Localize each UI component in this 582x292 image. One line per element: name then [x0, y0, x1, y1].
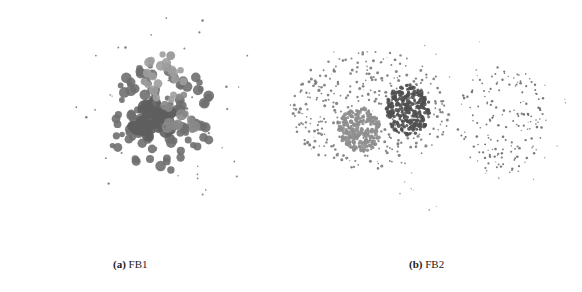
graph-node — [183, 48, 185, 50]
graph-node — [523, 101, 524, 102]
graph-node — [496, 166, 498, 168]
graph-node — [486, 103, 488, 105]
graph-node — [490, 104, 492, 106]
graph-node — [523, 125, 525, 127]
graph-node — [317, 124, 319, 126]
graph-node — [403, 96, 407, 100]
graph-node — [530, 121, 532, 123]
graph-node — [557, 145, 558, 146]
graph-node — [516, 155, 519, 158]
graph-node — [293, 104, 296, 107]
graph-canvas-fb1 — [60, 0, 280, 250]
graph-node — [491, 100, 494, 103]
graph-node — [405, 65, 407, 67]
graph-node — [369, 66, 372, 69]
graph-node — [501, 156, 503, 158]
graph-node — [377, 161, 378, 162]
graph-node — [375, 121, 379, 125]
graph-node — [401, 107, 404, 110]
graph-node — [397, 144, 399, 146]
graph-node — [385, 95, 387, 97]
graph-node — [509, 172, 511, 174]
graph-node — [179, 78, 187, 86]
graph-node — [389, 147, 391, 149]
graph-node — [418, 119, 422, 123]
graph-node — [517, 82, 519, 84]
graph-node — [386, 151, 389, 154]
graph-node — [463, 97, 466, 100]
graph-node — [361, 95, 363, 97]
graph-node — [124, 46, 127, 49]
graph-node — [367, 143, 371, 147]
graph-node — [390, 64, 392, 66]
graph-node — [345, 97, 348, 100]
graph-node — [327, 61, 330, 64]
graph-node — [406, 120, 410, 124]
graph-node — [503, 71, 505, 73]
graph-node — [427, 115, 430, 118]
graph-node — [375, 98, 378, 101]
graph-node — [424, 45, 426, 47]
graph-node — [169, 68, 178, 77]
graph-node — [351, 58, 353, 60]
graph-node — [408, 83, 412, 87]
graph-node — [334, 148, 337, 151]
graph-node — [409, 146, 412, 149]
graph-node — [424, 144, 427, 147]
graph-node — [412, 86, 416, 90]
graph-node — [427, 109, 431, 113]
graph-node — [163, 154, 171, 162]
graph-node — [417, 123, 421, 127]
graph-node — [476, 135, 479, 138]
graph-node — [397, 124, 401, 128]
graph-node — [517, 145, 519, 147]
graph-node — [518, 147, 521, 150]
graph-node — [199, 98, 210, 109]
graph-node — [372, 139, 375, 142]
graph-node — [146, 134, 154, 142]
graph-node — [121, 152, 123, 154]
graph-node — [131, 115, 137, 121]
graph-node — [310, 123, 312, 125]
graph-node — [115, 111, 122, 118]
graph-node — [201, 19, 204, 22]
graph-node — [332, 101, 334, 103]
graph-node — [495, 73, 497, 75]
graph-node — [527, 129, 529, 131]
graph-node — [333, 109, 336, 112]
graph-node — [177, 147, 185, 155]
graph-node — [342, 121, 345, 124]
graph-node — [377, 140, 379, 142]
graph-node — [440, 100, 443, 103]
graph-node — [358, 87, 361, 90]
graph-node — [370, 128, 373, 131]
graph-node — [400, 142, 402, 144]
graph-node — [305, 121, 307, 123]
graph-node — [395, 70, 398, 73]
graph-node — [420, 82, 422, 84]
graph-node — [136, 65, 143, 72]
graph-node — [370, 76, 373, 79]
graph-node — [412, 122, 416, 126]
graph-node — [396, 151, 398, 153]
graph-node — [327, 94, 330, 97]
graph-node — [415, 83, 418, 86]
graph-node — [397, 79, 400, 82]
graph-node — [127, 78, 136, 87]
graph-node — [372, 116, 376, 120]
graph-node — [362, 85, 365, 88]
graph-node — [340, 158, 343, 161]
graph-node — [415, 142, 418, 145]
graph-node — [404, 181, 405, 182]
graph-node — [511, 145, 512, 146]
graph-node — [500, 165, 502, 167]
graph-node — [565, 102, 567, 104]
graph-node — [359, 110, 362, 113]
graph-node — [416, 115, 419, 118]
graph-node — [380, 61, 382, 63]
graph-node — [105, 157, 107, 159]
graph-node — [164, 104, 172, 112]
graph-node — [525, 103, 527, 105]
graph-node — [511, 168, 513, 170]
graph-node — [113, 143, 122, 152]
